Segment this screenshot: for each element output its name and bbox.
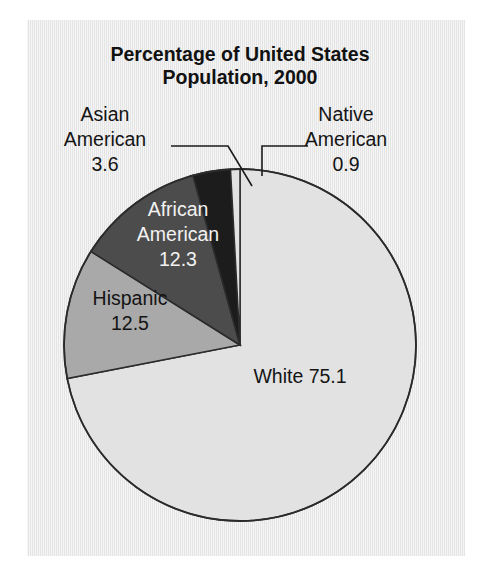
slice-label-native-american-line-3: 0.9 [332, 153, 359, 175]
slice-label-hispanic-line-1: Hispanic [93, 287, 168, 309]
slice-label-hispanic-line-2: 12.5 [111, 312, 149, 334]
pie-slices-group [64, 169, 416, 521]
slice-label-african-american-line-3: 12.3 [159, 248, 197, 270]
slice-label-native-american-line-1: Native [318, 103, 373, 125]
slice-label-white-line-1: White 75.1 [253, 365, 346, 387]
pie-chart-figure: Percentage of United States Population, … [0, 0, 480, 569]
slice-label-asian-american-line-3: 3.6 [91, 153, 118, 175]
slice-label-african-american-line-2: American [137, 223, 219, 245]
chart-title-line-1: Percentage of United States [111, 43, 370, 65]
slice-label-asian-american-line-1: Asian [81, 103, 130, 125]
chart-title-line-2: Population, 2000 [163, 66, 318, 88]
slice-label-asian-american-line-2: American [64, 128, 146, 150]
slice-label-african-american-line-1: African [148, 198, 209, 220]
pie-chart-canvas: Percentage of United States Population, … [0, 0, 480, 569]
slice-label-native-american-line-2: American [305, 128, 387, 150]
